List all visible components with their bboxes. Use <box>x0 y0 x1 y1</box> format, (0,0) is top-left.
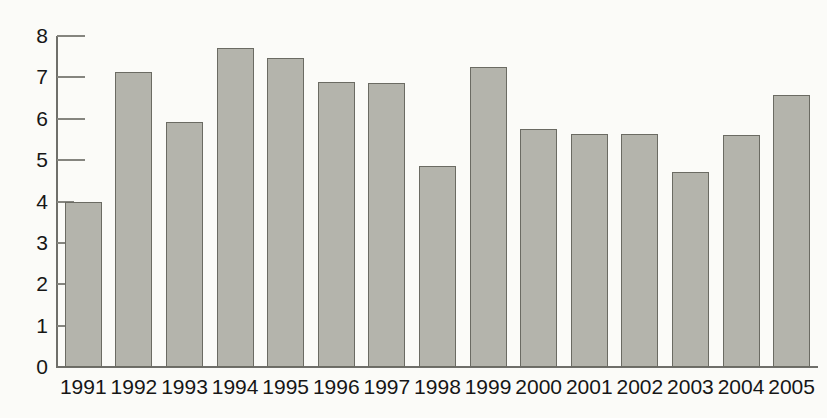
x-tick-label-1994: 1994 <box>210 372 261 406</box>
bar-slot <box>564 36 615 367</box>
x-tick-label-1999: 1999 <box>463 372 514 406</box>
bar-chart-figure: 012345678 199119921993199419951996199719… <box>0 0 827 418</box>
bar-slot <box>362 36 413 367</box>
plot-area <box>58 36 818 367</box>
bar-slot <box>311 36 362 367</box>
bar-1992[interactable] <box>115 72 152 367</box>
x-tick-label-1996: 1996 <box>311 372 362 406</box>
bar-slot <box>58 36 109 367</box>
x-tick-label-1998: 1998 <box>412 372 463 406</box>
x-tick-label-2004: 2004 <box>716 372 767 406</box>
x-tick-label-2005: 2005 <box>766 372 817 406</box>
bar-slot <box>210 36 261 367</box>
y-tick-label: 4 <box>8 188 48 216</box>
bar-slot <box>615 36 666 367</box>
y-tick-label: 8 <box>8 22 48 50</box>
bar-2002[interactable] <box>621 134 658 367</box>
bar-slot <box>766 36 817 367</box>
bar-slot <box>716 36 767 367</box>
x-tick-label-2003: 2003 <box>665 372 716 406</box>
y-tick-label: 1 <box>8 312 48 340</box>
bar-slot <box>513 36 564 367</box>
bar-2004[interactable] <box>723 135 760 367</box>
bar-1998[interactable] <box>419 166 456 367</box>
y-tick-label: 5 <box>8 146 48 174</box>
y-tick-label: 3 <box>8 229 48 257</box>
y-tick-label: 7 <box>8 63 48 91</box>
x-tick-label-2001: 2001 <box>564 372 615 406</box>
bar-2005[interactable] <box>773 95 810 367</box>
bar-1997[interactable] <box>368 83 405 367</box>
bar-slot <box>109 36 160 367</box>
bar-2001[interactable] <box>571 134 608 367</box>
y-tick-label: 2 <box>8 270 48 298</box>
x-tick-label-2000: 2000 <box>513 372 564 406</box>
x-tick-label-1995: 1995 <box>260 372 311 406</box>
bar-slot <box>665 36 716 367</box>
bar-1993[interactable] <box>166 122 203 367</box>
x-tick-label-2002: 2002 <box>615 372 666 406</box>
bar-slot <box>159 36 210 367</box>
bar-2000[interactable] <box>520 129 557 367</box>
bar-1995[interactable] <box>267 58 304 367</box>
bar-slot <box>463 36 514 367</box>
bar-2003[interactable] <box>672 172 709 367</box>
x-tick-label-1991: 1991 <box>58 372 109 406</box>
x-axis: 1991199219931994199519961997199819992000… <box>58 372 818 406</box>
x-tick-label-1997: 1997 <box>362 372 413 406</box>
bar-slot <box>412 36 463 367</box>
bar-slot <box>260 36 311 367</box>
bar-1994[interactable] <box>217 48 254 367</box>
y-tick-label: 0 <box>8 353 48 381</box>
bar-series <box>58 36 818 367</box>
bar-1996[interactable] <box>318 82 355 367</box>
bar-1999[interactable] <box>470 67 507 367</box>
bar-1991[interactable] <box>65 202 102 368</box>
x-tick-label-1993: 1993 <box>159 372 210 406</box>
y-tick-label: 6 <box>8 105 48 133</box>
x-tick-label-1992: 1992 <box>109 372 160 406</box>
